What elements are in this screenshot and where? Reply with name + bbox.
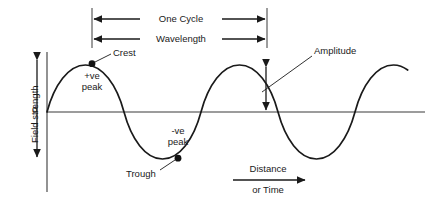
label-positive-peak-line1: +ve: [82, 70, 103, 81]
label-negative-peak-line1: -ve: [168, 125, 189, 136]
label-positive-peak-line2: peak: [82, 81, 103, 92]
label-field-strength: Field strength: [29, 85, 40, 143]
label-wavelength: Wavelength: [156, 33, 206, 44]
label-positive-peak: +ve peak: [82, 70, 103, 92]
label-amplitude: Amplitude: [314, 45, 356, 56]
label-distance-line2: or Time: [252, 184, 284, 195]
label-negative-peak: -ve peak: [168, 125, 189, 147]
label-trough: Trough: [126, 168, 156, 179]
crest-leader-line: [95, 54, 111, 62]
label-one-cycle: One Cycle: [159, 13, 203, 24]
crest-marker-dot: [89, 60, 96, 67]
wave-diagram: One Cycle Wavelength Crest +ve peak -ve …: [0, 0, 441, 208]
trough-leader-line: [160, 160, 175, 170]
amplitude-leader-line: [262, 56, 312, 92]
trough-marker-dot: [175, 155, 182, 162]
label-negative-peak-line2: peak: [168, 136, 189, 147]
label-crest: Crest: [113, 47, 136, 58]
wave-diagram-svg: [0, 0, 441, 208]
label-distance-line1: Distance: [250, 163, 287, 174]
